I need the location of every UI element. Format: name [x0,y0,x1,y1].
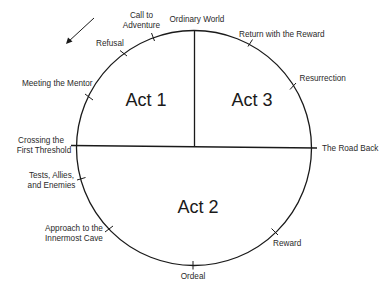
label-ordinary-world: Ordinary World [170,15,225,24]
act-3-label: Act 3 [232,90,273,110]
label-ordeal: Ordeal [181,272,206,281]
label-approach-cave-line1: Approach to the [45,224,103,233]
act-1-label: Act 1 [126,90,167,110]
label-tests-allies-line1: Tests, Allies, [29,171,74,180]
label-return-with-the-reward: Return with the Reward [239,30,325,39]
label-crossing-threshold-line2: First Threshold [17,146,72,155]
stage-ticks [77,33,296,270]
label-tests-allies-line2: and Enemies [28,181,76,190]
label-refusal: Refusal [96,39,124,48]
arrow-down-left-icon [66,18,94,44]
label-call-to-adventure-line2: Adventure [123,21,161,30]
label-resurrection: Resurrection [300,74,347,83]
label-crossing-threshold-line1: Crossing the [18,136,64,145]
label-approach-cave-line2: Innermost Cave [45,234,103,243]
label-call-to-adventure-line1: Call to [130,11,154,20]
label-reward: Reward [273,239,302,248]
label-the-road-back: The Road Back [322,144,379,153]
act-2-label: Act 2 [178,197,219,217]
label-meeting-the-mentor: Meeting the Mentor [22,79,93,88]
heros-journey-circle-diagram: Act 1 Act 3 Act 2 Ordinary World Call to… [0,0,389,292]
